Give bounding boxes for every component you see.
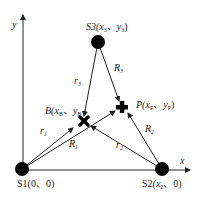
station-s1-node <box>15 162 29 176</box>
R1-label: R1 <box>68 138 78 150</box>
R2-vector <box>128 113 162 169</box>
point-p-label: P(xP、yP) <box>135 99 174 111</box>
R2-label: R2 <box>144 123 154 135</box>
R3-label: R3 <box>113 62 123 74</box>
point-b-label: B(xB、yB <box>45 105 81 117</box>
r1-label: r1 <box>40 125 47 137</box>
r3-label: r3 <box>74 75 81 87</box>
station-s2-node <box>155 162 169 176</box>
station-s1-label: S1(0、0) <box>17 178 54 190</box>
point-b-x-mark-icon <box>80 117 88 125</box>
r1-vector <box>22 128 73 169</box>
station-s2-label: S2(x2、0) <box>142 178 182 190</box>
x-axis-label: x <box>179 155 185 166</box>
r3-vector <box>84 42 98 116</box>
station-s3-node <box>91 35 105 49</box>
y-axis-label: y <box>11 19 17 30</box>
r2-label: r2 <box>116 139 123 151</box>
point-p-plus-mark-icon <box>116 101 128 113</box>
station-s3-label: S3(x3、y3) <box>86 21 128 33</box>
positioning-diagram: y x S3(x3、y3) S1(0、0) S2(x2、0) B(xB、yB P… <box>0 0 200 209</box>
